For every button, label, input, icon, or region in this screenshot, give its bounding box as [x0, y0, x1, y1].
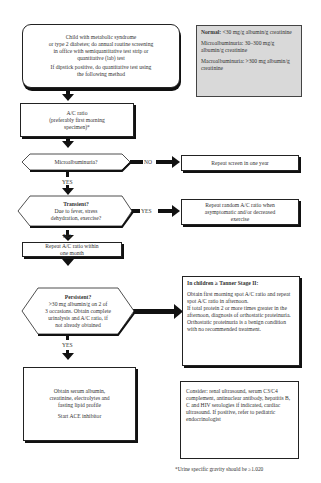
persistent-text-3: urinalysis and A/C ratio, if	[48, 315, 108, 322]
start-text-5: If dipstick positive, do quantitative te…	[51, 64, 152, 71]
albuminuria-legend-box: Normal: <30 mg/g albumin/g creatinine Mi…	[196, 25, 302, 97]
microalbuminuria-decision: Microalbuminuria?	[30, 155, 122, 170]
ac-ratio-text-1: A/C ratio	[67, 110, 88, 117]
microalbuminuria-question: Microalbuminuria?	[54, 159, 97, 166]
persistent-title: Persistent?	[65, 294, 91, 301]
serum-text-1: Obtain serum albumin,	[54, 388, 105, 395]
transient-text-2: dehydration, exercise?	[51, 215, 101, 222]
repeat-screen-text: Repeat screen in one year	[211, 160, 268, 167]
tanner-title: In children ≥ Tanner Stage II:	[187, 280, 295, 287]
serum-text-3: fasting lipid profile	[58, 402, 101, 409]
legend-macroalbuminuria: Macroalbuminuria: >300 mg albumin/g crea…	[201, 58, 297, 72]
persistent-text-1: >30 mg albumin/g on 2 of	[49, 301, 108, 308]
consider-box: Consider: renal ultrasound, serum C3/C4 …	[180, 381, 299, 459]
repeat-random-text-2: asymptomatic and/or decreased	[205, 209, 276, 216]
tanner-text-2: If total protein 2 or more times greater…	[187, 305, 295, 319]
repeat-month-box: Repeat A/C ratio within one month	[22, 242, 122, 257]
transient-decision: Transient? Due to fever, stress dehydrat…	[30, 197, 122, 225]
repeat-random-text-1: Repeat random A/C ratio when	[205, 202, 275, 209]
persistent-text-2: 3 occasions. Obtain complete	[45, 308, 111, 315]
normal-label: Normal:	[201, 29, 221, 35]
tanner-text-1: Obtain first morning spot A/C ratio and …	[187, 291, 295, 305]
serum-text-2: creatinine, electrolytes and	[49, 395, 109, 402]
ac-ratio-text-2: (preferably first morning	[49, 117, 105, 124]
normal-text: <30 mg/g albumin/g creatinine	[221, 29, 292, 35]
legend-normal: Normal: <30 mg/g albumin/g creatinine	[201, 29, 297, 36]
start-box: Child with metabolic syndrome or type 2 …	[22, 24, 180, 88]
transient-yes-label: YES	[141, 208, 152, 214]
repeat-random-box: Repeat random A/C ratio when asymptomati…	[181, 199, 299, 225]
start-text-4: quantitative (lab) test	[77, 55, 125, 62]
repeat-month-text-1: Repeat A/C ratio within	[45, 243, 98, 250]
persistent-yes-label: YES	[62, 342, 73, 348]
start-text-6: the following method	[77, 71, 125, 78]
transient-text-1: Due to fever, stress	[55, 208, 98, 215]
start-text-1: Child with metabolic syndrome	[66, 34, 137, 41]
consider-text: Consider: renal ultrasound, serum C3/C4 …	[186, 388, 293, 423]
tanner-stage-box: In children ≥ Tanner Stage II: Obtain fi…	[182, 276, 300, 366]
start-text-2: or type 2 diabetes; do annual routine sc…	[49, 41, 154, 48]
micro-no-label: NO	[144, 159, 152, 165]
transient-no-label: NO	[63, 233, 71, 239]
legend-microalbuminuria: Microalbuminuria: 30–300 mg/g albumin/g …	[201, 40, 297, 54]
persistent-text-4: not already obtained	[55, 322, 101, 329]
transient-title: Transient?	[63, 201, 89, 208]
micro-yes-label: YES	[62, 179, 73, 185]
repeat-random-text-3: exercise	[231, 216, 249, 223]
repeat-screen-box: Repeat screen in one year	[181, 155, 299, 171]
start-ace-inhibitor: Start ACE inhibitor	[58, 413, 102, 420]
repeat-month-text-2: one month	[60, 250, 84, 257]
serum-labs-box: Obtain serum albumin, creatinine, electr…	[23, 367, 136, 441]
ac-ratio-box: A/C ratio (preferably first morning spec…	[20, 103, 134, 137]
start-text-3: in office with semiquantitative test str…	[54, 48, 149, 55]
persistent-decision: Persistent? >30 mg albumin/g on 2 of 3 o…	[34, 289, 122, 333]
footnote: *Urine specific gravity should be ≥1.020	[175, 466, 263, 472]
ac-ratio-text-3: specimen)*	[64, 124, 90, 131]
tanner-text-3: Orthostatic proteinuria is a benign cond…	[187, 319, 295, 333]
